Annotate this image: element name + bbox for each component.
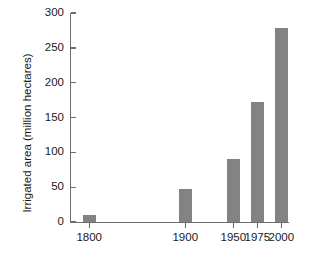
bars-layer (0, 13, 319, 222)
x-tick-mark (257, 223, 258, 228)
x-tick-mark (233, 223, 234, 228)
x-tick-mark (185, 223, 186, 228)
x-tick-label: 1800 (64, 232, 114, 244)
x-tick-mark (89, 223, 90, 228)
x-tick-label: 1900 (160, 232, 210, 244)
bar (227, 159, 240, 222)
bar (275, 28, 288, 222)
x-tick-label: 2000 (256, 232, 306, 244)
bar (251, 102, 264, 222)
bar-chart: Irrigated area (million hectares) 050100… (0, 0, 319, 266)
bar (179, 189, 192, 222)
bar (83, 215, 96, 222)
x-tick-mark (281, 223, 282, 228)
